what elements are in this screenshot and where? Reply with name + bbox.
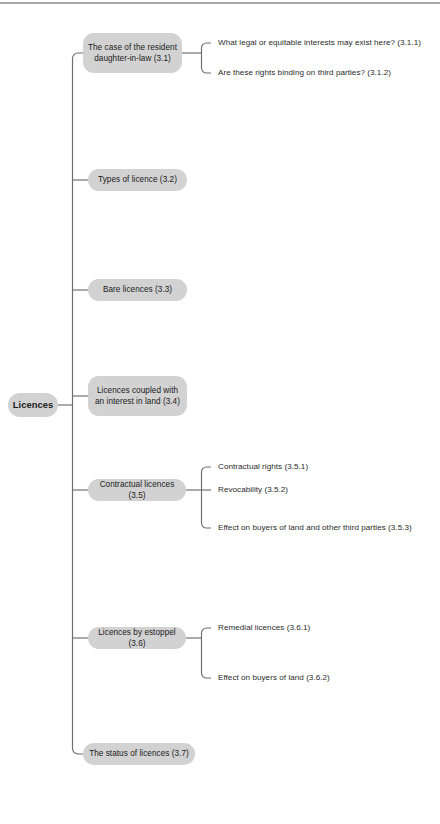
leaf-node-3-5-3[interactable]: Effect on buyers of land and other third… xyxy=(218,523,412,533)
leaf-node-3-6-1-label: Remedial licences (3.6.1) xyxy=(218,623,310,632)
branch-node-3-6[interactable]: Licences by estoppel (3.6) xyxy=(88,627,186,649)
root-node-label: Licences xyxy=(8,399,58,411)
branch-node-3-3-label: Bare licences (3.3) xyxy=(88,284,187,296)
edge-3-6-bracket xyxy=(202,628,212,678)
root-node[interactable]: Licences xyxy=(8,393,58,417)
leaf-node-3-1-2[interactable]: Are these rights binding on third partie… xyxy=(218,68,391,78)
leaf-node-3-6-1[interactable]: Remedial licences (3.6.1) xyxy=(218,623,310,633)
branch-node-3-2[interactable]: Types of licence (3.2) xyxy=(88,169,187,191)
leaf-node-3-5-1[interactable]: Contractual rights (3.5.1) xyxy=(218,462,308,472)
leaf-node-3-5-3-label: Effect on buyers of land and other third… xyxy=(218,523,412,532)
page-top-rule xyxy=(0,2,440,4)
leaf-node-3-1-2-label: Are these rights binding on third partie… xyxy=(218,68,391,77)
leaf-node-3-5-2[interactable]: Revocability (3.5.2) xyxy=(218,485,288,495)
leaf-node-3-6-2[interactable]: Effect on buyers of land (3.6.2) xyxy=(218,673,330,683)
branch-node-3-5[interactable]: Contractual licences (3.5) xyxy=(88,479,186,501)
leaf-node-3-1-1[interactable]: What legal or equitable interests may ex… xyxy=(218,38,421,48)
connector-lines xyxy=(0,0,440,824)
branch-node-3-6-label: Licences by estoppel (3.6) xyxy=(88,627,186,650)
branch-node-3-2-label: Types of licence (3.2) xyxy=(88,174,187,186)
edge-3-1-bracket xyxy=(202,43,212,73)
branch-node-3-7-label: The status of licences (3.7) xyxy=(83,748,195,760)
leaf-node-3-1-1-label: What legal or equitable interests may ex… xyxy=(218,38,421,47)
branch-node-3-1-label: The case of the resident daughter-in-law… xyxy=(83,42,182,65)
branch-node-3-1[interactable]: The case of the resident daughter-in-law… xyxy=(83,33,182,73)
edge-trunk xyxy=(73,53,84,754)
edge-3-5-bracket xyxy=(202,467,212,528)
branch-node-3-3[interactable]: Bare licences (3.3) xyxy=(88,279,187,301)
branch-node-3-4[interactable]: Licences coupled with an interest in lan… xyxy=(88,376,187,416)
leaf-node-3-5-2-label: Revocability (3.5.2) xyxy=(218,485,288,494)
leaf-node-3-5-1-label: Contractual rights (3.5.1) xyxy=(218,462,308,471)
branch-node-3-5-label: Contractual licences (3.5) xyxy=(88,479,186,502)
leaf-node-3-6-2-label: Effect on buyers of land (3.6.2) xyxy=(218,673,330,682)
mind-map-canvas: Licences The case of the resident daught… xyxy=(0,0,440,824)
branch-node-3-4-label: Licences coupled with an interest in lan… xyxy=(88,385,187,408)
branch-node-3-7[interactable]: The status of licences (3.7) xyxy=(83,743,195,765)
